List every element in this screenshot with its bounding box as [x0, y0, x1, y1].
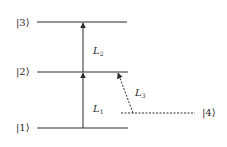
level-1-label: |1⟩ [16, 123, 30, 133]
transition-L1-label: L1 [93, 104, 103, 115]
transition-L3-label: L3 [135, 88, 145, 99]
transition-L2-label-sub: 2 [100, 50, 104, 57]
transition-L3-label-base: L [135, 87, 142, 98]
transition-L2-label: L2 [93, 46, 103, 57]
energy-level-diagram [0, 0, 227, 147]
transition-L2-label-base: L [93, 45, 100, 56]
level-4-label: |4⟩ [202, 108, 216, 118]
transition-L3-arrow [118, 73, 133, 113]
transition-L3-label-sub: 3 [142, 92, 146, 99]
transition-L1-label-sub: 1 [100, 108, 104, 115]
level-2-label: |2⟩ [16, 67, 30, 77]
level-3-label: |3⟩ [16, 18, 30, 28]
transition-L1-label-base: L [93, 103, 100, 114]
